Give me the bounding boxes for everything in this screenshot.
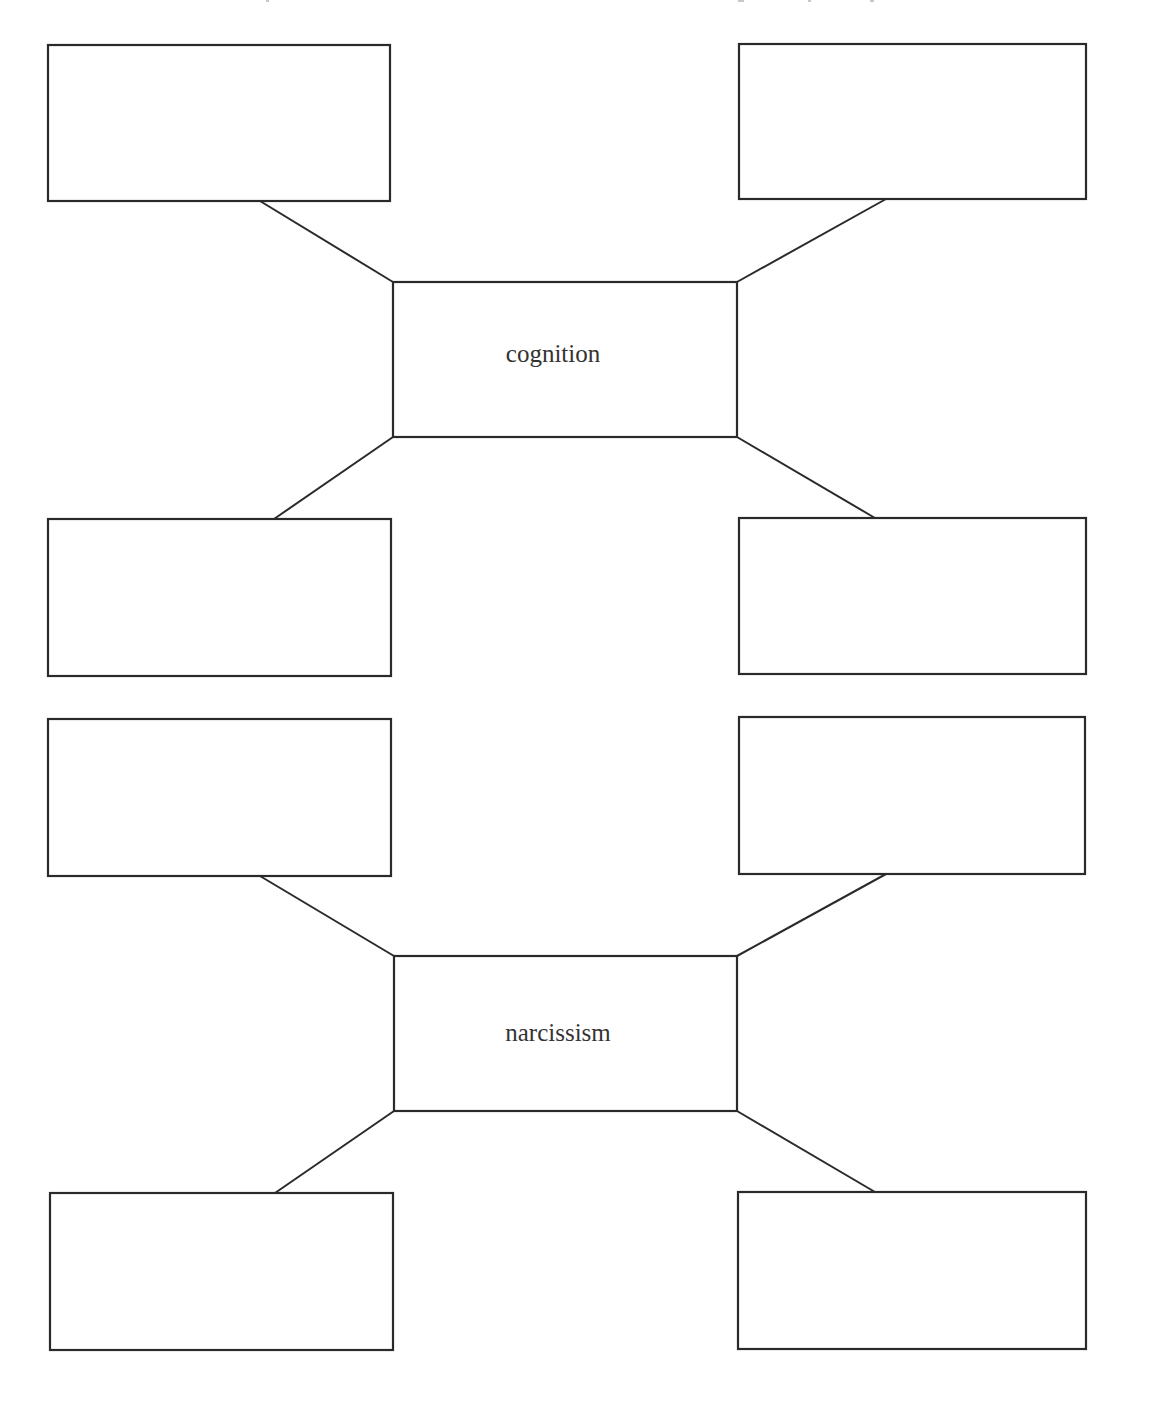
connector-bottom-right bbox=[737, 1111, 875, 1192]
center-label: cognition bbox=[506, 340, 601, 367]
word-web-worksheet: cognition narcissism bbox=[0, 0, 1151, 1406]
cluster-cognition: cognition bbox=[48, 44, 1086, 676]
connector-bottom-left bbox=[275, 1111, 394, 1193]
connector-top-right bbox=[737, 874, 886, 956]
outer-box-top-left[interactable] bbox=[48, 719, 391, 876]
connector-bottom-right bbox=[737, 437, 875, 518]
outer-box-top-right[interactable] bbox=[739, 44, 1086, 199]
outer-box-bottom-left[interactable] bbox=[50, 1193, 393, 1350]
connector-top-left bbox=[260, 876, 394, 956]
connector-top-left bbox=[260, 201, 393, 282]
outer-box-bottom-right[interactable] bbox=[739, 518, 1086, 674]
center-box-narcissism: narcissism bbox=[394, 956, 737, 1111]
connector-bottom-left bbox=[274, 437, 393, 519]
connector-top-right bbox=[737, 199, 886, 282]
outer-box-bottom-left[interactable] bbox=[48, 519, 391, 676]
cluster-narcissism: narcissism bbox=[48, 717, 1086, 1350]
outer-box-top-left[interactable] bbox=[48, 45, 390, 201]
outer-box-top-right[interactable] bbox=[739, 717, 1085, 874]
center-label: narcissism bbox=[505, 1019, 611, 1046]
outer-box-bottom-right[interactable] bbox=[738, 1192, 1086, 1349]
clipped-header-fragments bbox=[266, 0, 874, 2]
center-box-cognition: cognition bbox=[393, 282, 737, 437]
